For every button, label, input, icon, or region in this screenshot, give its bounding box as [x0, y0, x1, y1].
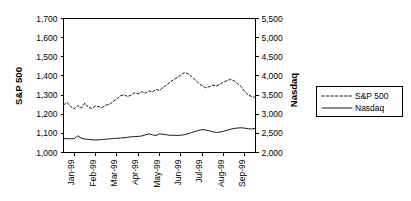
right-axis-tick-label: 2,000 [262, 148, 284, 158]
left-axis: 1,0001,1001,2001,3001,4001,5001,6001,700 [36, 14, 63, 158]
left-axis-tick-label: 1,000 [36, 148, 58, 158]
left-axis-tick-label: 1,400 [36, 71, 58, 81]
x-axis: Jan-99Feb-99Mar-99Apr-99May-99Jun-99Jul-… [66, 153, 247, 188]
right-axis-tick-label: 5,000 [262, 33, 284, 43]
left-axis-tick-label: 1,300 [36, 90, 58, 100]
plot-frame [64, 19, 256, 153]
right-axis-tick-label: 5,500 [262, 14, 284, 24]
right-axis-tick-label: 3,500 [262, 90, 284, 100]
legend: S&P 500 Nasdaq [317, 87, 403, 117]
right-axis-tick-label: 2,500 [262, 128, 284, 138]
series-line-nasdaq [64, 128, 256, 140]
right-axis-tick-label: 4,500 [262, 52, 284, 62]
right-axis-tick-label: 3,000 [262, 109, 284, 119]
series-line-s-p-500 [64, 72, 256, 108]
right-axis-tick-label: 4,000 [262, 71, 284, 81]
chart-container: 1,0001,1001,2001,3001,4001,5001,6001,700… [0, 0, 411, 201]
left-axis-title: S&P 500 [13, 67, 24, 105]
legend-label-sp500: S&P 500 [355, 91, 389, 101]
dual-axis-line-chart: 1,0001,1001,2001,3001,4001,5001,6001,700… [0, 0, 411, 201]
left-axis-tick-label: 1,100 [36, 128, 58, 138]
x-axis-tick-label: Mar-99 [109, 159, 119, 186]
x-axis-tick-label: May-99 [152, 159, 162, 188]
left-axis-tick-label: 1,600 [36, 33, 58, 43]
x-axis-tick-label: Jan-99 [66, 159, 76, 185]
x-axis-tick-label: Apr-99 [130, 159, 140, 185]
left-axis-tick-label: 1,200 [36, 109, 58, 119]
right-axis: 2,0002,5003,0003,5004,0004,5005,0005,500 [256, 14, 284, 158]
x-axis-tick-label: Jun-99 [173, 159, 183, 185]
x-axis-tick-label: Aug-99 [216, 159, 226, 187]
legend-label-nasdaq: Nasdaq [355, 103, 385, 113]
x-axis-tick-label: Feb-99 [88, 159, 98, 186]
data-series-group [64, 72, 256, 139]
left-axis-tick-label: 1,700 [36, 14, 58, 24]
left-axis-tick-label: 1,500 [36, 52, 58, 62]
x-axis-tick-label: Sep-99 [237, 159, 247, 187]
right-axis-title: Nasdaq [288, 73, 299, 108]
x-axis-tick-label: Jul-99 [194, 159, 204, 182]
